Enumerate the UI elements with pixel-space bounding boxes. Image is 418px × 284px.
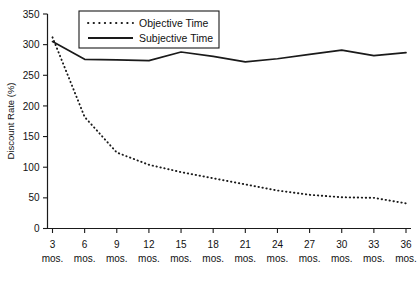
x-axis-tick-label-number: 3 [50, 239, 56, 250]
x-axis-ticks [53, 229, 407, 234]
y-axis-tick-label: 50 [28, 192, 40, 203]
x-axis-tick-label-unit: mos. [138, 253, 160, 264]
y-axis-tick-label: 350 [23, 9, 40, 20]
y-axis-tick-label: 250 [23, 70, 40, 81]
x-axis-tick-label-unit: mos. [267, 253, 289, 264]
x-axis-tick-labels: 3mos.6mos.9mos.12mos.15mos.18mos.21mos.2… [42, 239, 417, 264]
x-axis-tick-label-number: 18 [208, 239, 220, 250]
x-axis-tick-label-number: 6 [82, 239, 88, 250]
line-chart: 050100150200250300350 3mos.6mos.9mos.12m… [0, 0, 418, 284]
y-axis-tick-label: 100 [23, 162, 40, 173]
x-axis-tick-label-number: 15 [175, 239, 187, 250]
x-axis-tick-label-unit: mos. [363, 253, 385, 264]
x-axis-tick-label-number: 12 [143, 239, 155, 250]
x-axis-tick-label-unit: mos. [74, 253, 96, 264]
chart-container: 050100150200250300350 3mos.6mos.9mos.12m… [0, 0, 418, 284]
y-axis-tick-label: 300 [23, 39, 40, 50]
x-axis-tick-label-unit: mos. [234, 253, 256, 264]
x-axis-tick-label-unit: mos. [42, 253, 64, 264]
x-axis-tick-label-unit: mos. [395, 253, 417, 264]
y-axis-ticks [43, 14, 48, 229]
x-axis-tick-label-unit: mos. [299, 253, 321, 264]
x-axis-tick-label-number: 21 [240, 239, 252, 250]
series-line-objective-time [53, 37, 407, 203]
y-axis-title: Discount Rate (%) [5, 82, 16, 159]
x-axis-tick-label-number: 30 [336, 239, 348, 250]
x-axis-tick-label-number: 33 [368, 239, 380, 250]
x-axis-tick-label-number: 27 [304, 239, 316, 250]
x-axis-tick-label-number: 9 [114, 239, 120, 250]
x-axis-tick-label-unit: mos. [202, 253, 224, 264]
series-layer [53, 37, 407, 203]
x-axis-tick-label-unit: mos. [331, 253, 353, 264]
y-axis-tick-label: 200 [23, 101, 40, 112]
x-axis-tick-label-unit: mos. [170, 253, 192, 264]
x-axis-tick-label-number: 24 [272, 239, 284, 250]
y-axis-tick-labels: 050100150200250300350 [23, 9, 40, 235]
y-axis-tick-label: 0 [34, 223, 40, 234]
x-axis-tick-label-number: 36 [400, 239, 412, 250]
legend-label-objective-time: Objective Time [139, 17, 209, 29]
legend-label-subjective-time: Subjective Time [139, 32, 213, 44]
x-axis-tick-label-unit: mos. [106, 253, 128, 264]
y-axis-tick-label: 150 [23, 131, 40, 142]
chart-legend: Objective Time Subjective Time [79, 11, 219, 48]
